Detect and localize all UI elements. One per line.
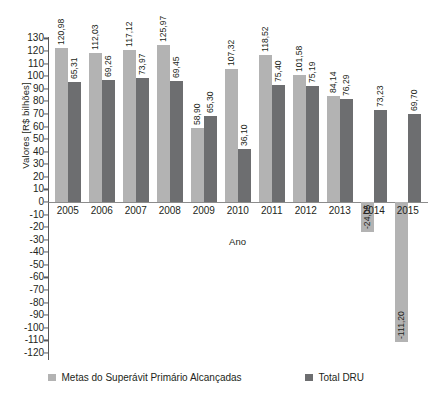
y-tick-label: 20	[33, 172, 44, 182]
y-tick-mark	[44, 76, 49, 77]
y-tick-mark	[44, 151, 49, 152]
bar-group: 118,5275,40	[259, 30, 285, 360]
y-tick-mark	[44, 340, 49, 341]
bar	[102, 80, 115, 202]
y-tick-mark	[44, 302, 49, 303]
bar	[89, 53, 102, 202]
y-tick-label: 120	[27, 46, 44, 56]
x-tick-label: 2005	[57, 206, 79, 216]
bar-value-label: 65,30	[206, 91, 215, 113]
x-tick-label: 2011	[261, 206, 283, 216]
bar-group: 120,9865,31	[55, 30, 81, 360]
x-tick-label: 2013	[329, 206, 351, 216]
bar-value-label: 69,45	[172, 56, 181, 78]
bar	[293, 75, 306, 202]
y-tick-mark	[44, 214, 49, 215]
bar	[55, 48, 68, 202]
y-tick-label: 100	[27, 71, 44, 81]
bar-group: -24,0573,23	[361, 30, 387, 360]
y-tick-mark	[44, 88, 49, 89]
y-tick-label: -10	[30, 210, 44, 220]
bar	[259, 55, 272, 202]
bar-value-label: 73,23	[376, 85, 385, 107]
y-tick-mark	[44, 139, 49, 140]
legend-label: Total DRU	[319, 372, 365, 383]
y-tick-mark	[44, 189, 49, 190]
chart-legend: Metas do Superávit Primário AlcançadasTo…	[0, 372, 434, 392]
y-tick-label: 70	[33, 109, 44, 119]
y-tick-mark	[44, 126, 49, 127]
bar-value-label: 120,98	[57, 19, 66, 45]
bar-value-label: 118,52	[261, 27, 270, 53]
bar-group: 58,9065,30	[191, 30, 217, 360]
y-tick-mark	[44, 315, 49, 316]
y-tick-mark	[44, 38, 49, 39]
y-tick-label: 130	[27, 33, 44, 43]
bar	[327, 96, 340, 202]
bar	[157, 45, 170, 202]
bar-value-label: 84,14	[329, 72, 338, 94]
bar-value-label: 117,12	[125, 21, 134, 47]
legend-item: Total DRU	[305, 372, 364, 383]
bar-value-label: 58,90	[193, 104, 202, 126]
y-tick-mark	[44, 164, 49, 165]
y-axis-line	[48, 37, 49, 360]
bar-value-label: 69,70	[410, 90, 419, 112]
y-tick-mark	[44, 50, 49, 51]
y-tick-mark	[44, 352, 49, 353]
y-tick-label: -80	[30, 298, 44, 308]
bar	[123, 50, 136, 202]
bar-value-label: 65,31	[70, 58, 79, 80]
bar-group: 101,5875,19	[293, 30, 319, 360]
y-tick-label: 60	[33, 122, 44, 132]
bar	[408, 114, 421, 202]
y-tick-label: -30	[30, 235, 44, 245]
y-tick-label: 50	[33, 134, 44, 144]
bar-value-label: 107,32	[227, 40, 236, 66]
bar	[68, 82, 81, 202]
y-tick-label: -100	[24, 323, 44, 333]
bar	[272, 85, 285, 202]
bar-value-label: 73,97	[138, 54, 147, 76]
y-tick-label: -70	[30, 285, 44, 295]
y-tick-mark	[44, 113, 49, 114]
bar-value-label: 75,40	[274, 60, 283, 82]
x-tick-label: 2010	[227, 206, 249, 216]
y-tick-mark	[44, 327, 49, 328]
x-tick-label: 2007	[125, 206, 147, 216]
bar-value-label: 76,29	[342, 75, 351, 97]
y-tick-label: 90	[33, 84, 44, 94]
y-tick-label: 40	[33, 147, 44, 157]
bar-chart-figure: Valores [R$ bilhões] 1301201101009080706…	[0, 0, 434, 395]
y-tick-label: -60	[30, 272, 44, 282]
bar	[238, 149, 251, 202]
bar-value-label: 36,10	[240, 125, 249, 147]
bar-group: 84,1476,29	[327, 30, 353, 360]
x-tick-label: 2012	[295, 206, 317, 216]
y-tick-label: 80	[33, 96, 44, 106]
bar	[374, 110, 387, 202]
y-tick-mark	[44, 264, 49, 265]
bar	[306, 86, 319, 202]
y-tick-mark	[44, 176, 49, 177]
x-tick-label: 2015	[397, 206, 419, 216]
x-tick-label: 2008	[159, 206, 181, 216]
bar-group: 112,0369,26	[89, 30, 115, 360]
legend-swatch	[305, 374, 313, 382]
bar-value-label: 125,97	[159, 15, 168, 41]
y-tick-mark	[44, 201, 49, 202]
y-tick-label: -90	[30, 310, 44, 320]
y-tick-mark	[44, 227, 49, 228]
legend-label: Metas do Superávit Primário Alcançadas	[62, 372, 242, 383]
x-tick-label: 2009	[193, 206, 215, 216]
bar-group: 117,1273,97	[123, 30, 149, 360]
x-tick-label: 2014	[363, 206, 385, 216]
bar	[191, 128, 204, 202]
bar	[170, 81, 183, 202]
bar-value-label: 112,03	[91, 24, 100, 50]
y-tick-mark	[44, 63, 49, 64]
plot-area: 1301201101009080706050403020100-10-20-30…	[48, 30, 428, 360]
bar	[340, 99, 353, 202]
y-tick-label: 30	[33, 159, 44, 169]
y-tick-label: -50	[30, 260, 44, 270]
